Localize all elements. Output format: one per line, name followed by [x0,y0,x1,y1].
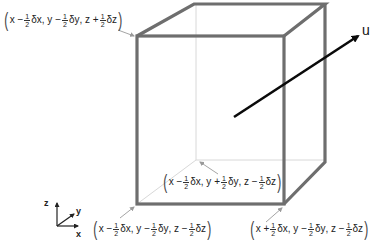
y-term: y + 12δy, [206,175,244,190]
y-axis [57,214,74,226]
z-sign: − [252,177,258,187]
z-delta: δz [266,177,277,187]
close-paren: ) [207,219,211,239]
frac-den: 2 [113,230,119,237]
z-term: z − 12δz [331,222,363,237]
z-term: z − 12δz [244,175,276,190]
fraction: 12 [100,13,106,28]
x-delta: δx [31,15,42,25]
open-paren: ( [93,219,97,239]
z-var: z [174,224,179,234]
x-delta: δx [120,224,131,234]
fraction: 12 [346,222,352,237]
x-var: x [99,224,104,234]
axis-label-x: x [76,229,81,239]
x-term: x − 12δx, [169,175,207,190]
z-sign: − [182,224,188,234]
z-var: z [244,177,249,187]
y-delta: δy [228,177,239,187]
z-delta: δz [196,224,207,234]
fraction: 12 [189,222,195,237]
fraction: 12 [308,222,314,237]
y-delta: δy [69,15,80,25]
open-paren: ( [163,172,167,192]
axis-label-z: z [44,198,49,208]
frac-den: 2 [183,183,189,190]
y-sign: − [144,224,150,234]
fraction: 12 [62,13,68,28]
x-sign: − [17,15,23,25]
fraction: 12 [259,175,265,190]
leader-lines [118,30,282,222]
z-var: z [85,15,90,25]
frac-den: 2 [24,21,30,28]
fraction: 12 [270,222,276,237]
frac-num: 1 [221,175,227,183]
y-sign: − [55,15,61,25]
y-var: y [136,224,141,234]
close-paren: ) [118,10,122,30]
cube-right-face [284,4,325,204]
axes-icon [57,203,78,226]
close-paren: ) [364,219,368,239]
frac-den: 2 [221,183,227,190]
open-paren: ( [250,219,254,239]
cube-diagram [0,0,375,244]
fraction: 12 [113,222,119,237]
z-var: z [331,224,336,234]
z-term: z + 12δz [85,13,117,28]
velocity-vector-arrow [234,36,358,117]
axis-label-y: y [76,206,81,216]
z-delta: δz [353,224,364,234]
y-sign: + [214,177,220,187]
frac-den: 2 [270,230,276,237]
x-var: x [10,15,15,25]
corner-label-bottom-left-front: ( x − 12δx, y − 12δy, z − 12δz ) [92,219,213,239]
frac-den: 2 [259,183,265,190]
frac-den: 2 [151,230,157,237]
x-var: x [256,224,261,234]
y-var: y [206,177,211,187]
fraction: 12 [24,13,30,28]
fraction: 12 [151,222,157,237]
x-var: x [169,177,174,187]
frac-num: 1 [183,175,189,183]
y-term: y − 12δy, [136,222,174,237]
frac-den: 2 [189,230,195,237]
z-sign: − [339,224,345,234]
corner-label-bottom-right-front: ( x + 12δx, y − 12δy, z − 12δz ) [249,219,370,239]
close-paren: ) [277,172,281,192]
x-sign: + [263,224,269,234]
x-term: x − 12δx, [10,13,48,28]
frac-den: 2 [346,230,352,237]
x-term: x + 12δx, [256,222,294,237]
y-term: y − 12δy, [293,222,331,237]
leader-bottom-left-front [120,207,134,218]
frac-num: 1 [151,222,157,230]
y-delta: δy [158,224,169,234]
frac-den: 2 [62,21,68,28]
cube-top-face [137,4,325,36]
y-var: y [293,224,298,234]
x-delta: δx [190,177,201,187]
frac-den: 2 [308,230,314,237]
frac-num: 1 [259,175,265,183]
z-term: z − 12δz [174,222,206,237]
vector-label: u [362,22,370,38]
frac-num: 1 [62,13,68,21]
y-sign: − [301,224,307,234]
x-term: x − 12δx, [99,222,137,237]
y-var: y [47,15,52,25]
z-sign: + [93,15,99,25]
frac-num: 1 [270,222,276,230]
open-paren: ( [4,10,8,30]
y-delta: δy [315,224,326,234]
x-delta: δx [277,224,288,234]
z-delta: δz [107,15,118,25]
frac-num: 1 [24,13,30,21]
fraction: 12 [221,175,227,190]
frac-num: 1 [308,222,314,230]
x-sign: − [176,177,182,187]
frac-den: 2 [100,21,106,28]
corner-label-bottom-left-back: ( x − 12δx, y + 12δy, z − 12δz ) [162,172,283,192]
